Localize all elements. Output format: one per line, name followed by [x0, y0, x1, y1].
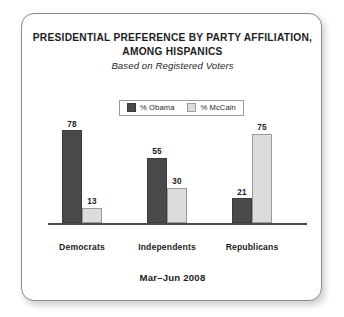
chart-plot-area: 78 13 55 30 21 — [48, 114, 307, 239]
bar-republicans-obama[interactable] — [232, 198, 252, 223]
category-label-democrats: Democrats — [37, 242, 127, 252]
bar-group-republicans: 21 75 — [232, 113, 272, 223]
chart-category-labels: Democrats Independents Republicans — [48, 242, 307, 256]
bar-value-independents-obama: 55 — [147, 147, 167, 156]
legend-swatch-mccain-icon — [187, 103, 196, 112]
chart-title-line-2: AMONG HISPANICS — [30, 45, 315, 59]
bar-value-democrats-obama: 78 — [62, 120, 82, 129]
chart-subtitle: Based on Registered Voters — [30, 60, 315, 72]
bar-republicans-mccain[interactable] — [252, 134, 272, 224]
bar-value-democrats-mccain: 13 — [82, 197, 102, 206]
bar-value-republicans-obama: 21 — [232, 188, 252, 197]
bar-independents-obama[interactable] — [147, 158, 167, 224]
bar-democrats-mccain[interactable] — [82, 208, 102, 224]
category-label-independents: Independents — [122, 242, 212, 252]
bar-wrap-democrats-obama[interactable]: 78 — [62, 113, 82, 223]
bar-independents-mccain[interactable] — [167, 188, 187, 224]
legend-swatch-obama-icon — [127, 103, 136, 112]
legend-item-mccain[interactable]: % McCain — [187, 103, 235, 112]
chart-figure: PRESIDENTIAL PREFERENCE BY PARTY AFFILIA… — [0, 0, 344, 317]
bar-value-republicans-mccain: 75 — [252, 123, 272, 132]
category-label-republicans: Republicans — [207, 242, 297, 252]
bar-value-independents-mccain: 30 — [167, 177, 187, 186]
bar-wrap-independents-obama[interactable]: 55 — [147, 113, 167, 223]
legend-label-obama: % Obama — [140, 103, 174, 112]
bar-wrap-republicans-obama[interactable]: 21 — [232, 113, 252, 223]
chart-title-block: PRESIDENTIAL PREFERENCE BY PARTY AFFILIA… — [30, 31, 315, 72]
bar-group-independents: 55 30 — [147, 113, 187, 223]
bar-wrap-independents-mccain[interactable]: 30 — [167, 113, 187, 223]
bar-wrap-democrats-mccain[interactable]: 13 — [82, 113, 102, 223]
bar-democrats-obama[interactable] — [62, 130, 82, 223]
chart-x-axis-line — [48, 223, 307, 225]
bar-wrap-republicans-mccain[interactable]: 75 — [252, 113, 272, 223]
chart-title-line-1: PRESIDENTIAL PREFERENCE BY PARTY AFFILIA… — [30, 31, 315, 45]
chart-card-frame: PRESIDENTIAL PREFERENCE BY PARTY AFFILIA… — [21, 13, 322, 301]
chart-footnote-period: Mar–Jun 2008 — [30, 272, 315, 283]
legend-label-mccain: % McCain — [200, 103, 235, 112]
bar-group-democrats: 78 13 — [62, 113, 102, 223]
legend-item-obama[interactable]: % Obama — [127, 103, 174, 112]
